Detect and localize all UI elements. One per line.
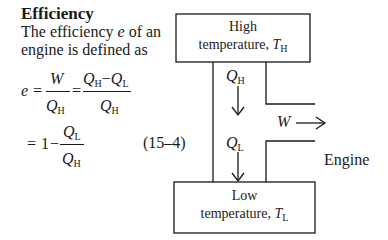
engine-right-wall-lower xyxy=(266,141,315,182)
engine-right-wall-upper xyxy=(266,62,315,104)
work-label: W xyxy=(277,113,290,131)
heat-out-label: QL xyxy=(226,134,244,153)
engine-label: Engine xyxy=(324,151,369,169)
high-temp-label: High temperature, TH xyxy=(176,18,310,58)
low-temp-label: Low temperature, TL xyxy=(174,187,315,227)
heat-in-label: QH xyxy=(226,67,245,86)
